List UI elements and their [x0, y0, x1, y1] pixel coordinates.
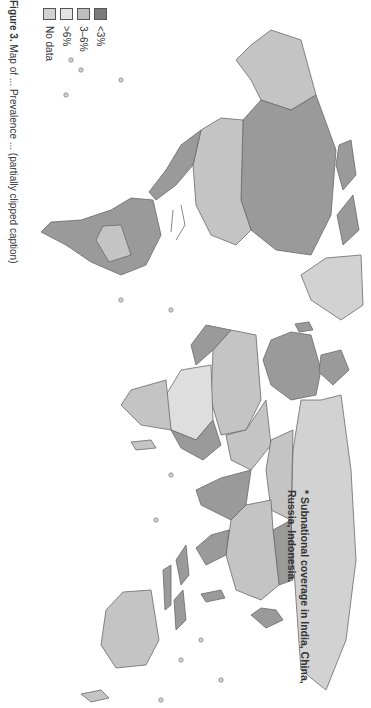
region-uk	[295, 322, 313, 332]
region-japan	[251, 608, 283, 628]
region-southern-africa	[121, 380, 171, 430]
legend-swatch-high	[61, 8, 74, 20]
region-canada	[241, 95, 336, 255]
region-new-zealand	[81, 690, 109, 702]
legend-item-low: <3%	[93, 8, 109, 61]
rotated-figure: * Subnational coverage in India, China, …	[0, 0, 371, 708]
region-madagascar	[131, 440, 156, 450]
region-alaska	[236, 30, 316, 110]
caption-label: Figure 3.	[8, 0, 19, 42]
legend-item-nodata: No data	[42, 8, 58, 61]
world-map	[31, 0, 371, 708]
region-europe	[263, 332, 321, 400]
legend-label-nodata: No data	[45, 26, 56, 61]
legend-item-high: >6%	[59, 8, 75, 61]
region-arctic-islands	[336, 140, 359, 245]
region-australia	[101, 590, 159, 668]
legend-label-high: >6%	[62, 26, 73, 46]
region-greenland	[301, 255, 363, 320]
region-indonesia	[163, 545, 189, 630]
region-se-asia	[196, 530, 229, 565]
caption-text: Map of ... Prevalence ... (partially cli…	[8, 44, 19, 263]
region-mexico	[149, 130, 201, 200]
legend-label-mid: 3–6%	[79, 26, 90, 52]
figure-caption: Figure 3. Map of ... Prevalence ... (par…	[0, 0, 19, 708]
figure-stage: * Subnational coverage in India, China, …	[0, 0, 371, 708]
legend: <3% 3–6% >6% No data	[41, 8, 109, 61]
legend-swatch-nodata	[44, 8, 57, 20]
subnational-note: * Subnational coverage in India, China, …	[285, 490, 311, 690]
legend-label-low: <3%	[96, 26, 107, 46]
region-philippines	[201, 590, 225, 602]
legend-item-mid: 3–6%	[76, 8, 92, 61]
region-scandinavia	[319, 350, 349, 385]
legend-swatch-low	[95, 8, 108, 20]
legend-swatch-mid	[78, 8, 91, 20]
region-caribbean	[171, 205, 185, 240]
